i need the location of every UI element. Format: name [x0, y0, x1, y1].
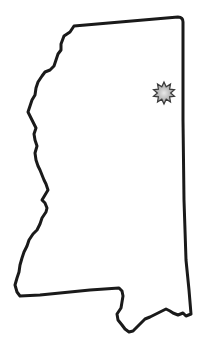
state-outline: [15, 17, 191, 332]
state-map: [0, 0, 206, 347]
